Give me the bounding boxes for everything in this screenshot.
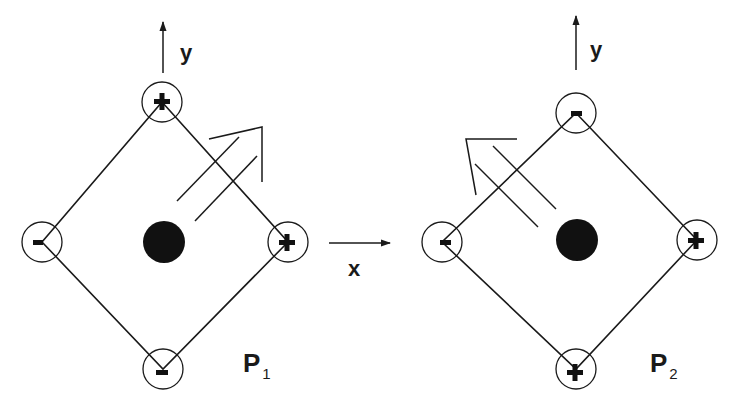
quadrupole-diagram: y P1 x — [0, 0, 736, 404]
diagonal-arrow-upper-right-icon — [177, 127, 262, 221]
panel-label-p1: P1 — [243, 348, 271, 382]
diagonal-arrow-upper-left-icon — [466, 139, 556, 227]
plus-sign-icon — [567, 364, 583, 381]
minus-sign-icon — [33, 240, 43, 245]
x-axis-label: x — [348, 256, 361, 281]
panel-p1: y P1 — [22, 22, 308, 389]
y-axis-label: y — [590, 37, 603, 62]
y-axis-label: y — [180, 40, 193, 65]
minus-sign-icon — [440, 240, 451, 245]
central-dot — [143, 221, 185, 263]
panel-label-p2: P2 — [650, 348, 678, 382]
minus-sign-icon — [571, 111, 582, 116]
central-dot — [556, 219, 598, 261]
minus-sign-icon — [156, 370, 168, 375]
panel-p2: y P2 — [422, 16, 717, 389]
